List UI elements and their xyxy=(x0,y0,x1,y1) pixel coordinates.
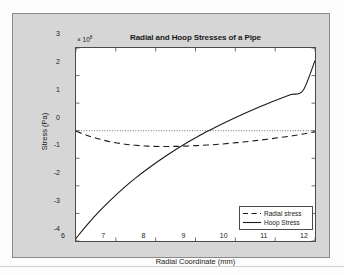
series-line-radial-stress xyxy=(76,131,315,146)
y-axis-exponent-label: × 108 xyxy=(77,35,92,43)
chart-title: Radial and Hoop Stresses of a Pipe xyxy=(75,33,316,42)
x-tick-label: 12 xyxy=(296,232,312,239)
x-axis-label: Radial Coordinate (mm) xyxy=(75,257,316,266)
legend-item: Radial stress xyxy=(243,209,309,218)
legend-swatch-dashed xyxy=(243,210,261,217)
y-tick-label: 3 xyxy=(44,30,60,37)
x-tick-label: 6 xyxy=(55,232,71,239)
x-tick-label: 9 xyxy=(176,232,192,239)
page-divider-rule xyxy=(0,266,344,267)
x-tick-label: 8 xyxy=(135,232,151,239)
x-tick-label: 10 xyxy=(216,232,232,239)
y-tick-label: -4 xyxy=(44,225,60,232)
exponent-power: 8 xyxy=(90,35,93,40)
figure-panel: Radial and Hoop Stresses of a Pipe × 108… xyxy=(12,13,330,258)
y-tick-label: 2 xyxy=(44,58,60,65)
legend-label-radial-stress: Radial stress xyxy=(264,209,302,218)
chart-legend: Radial stress Hoop Stress xyxy=(239,206,313,230)
y-tick-label: -3 xyxy=(44,197,60,204)
legend-item: Hoop Stress xyxy=(243,218,309,227)
y-axis-label: Stress (Pa) xyxy=(40,87,49,177)
x-tick-label: 11 xyxy=(256,232,272,239)
legend-label-hoop-stress: Hoop Stress xyxy=(264,218,300,227)
legend-swatch-solid xyxy=(243,219,261,226)
page-canvas: Radial and Hoop Stresses of a Pipe × 108… xyxy=(0,0,344,275)
exponent-mantissa: × 10 xyxy=(77,36,90,43)
x-tick-label: 7 xyxy=(95,232,111,239)
